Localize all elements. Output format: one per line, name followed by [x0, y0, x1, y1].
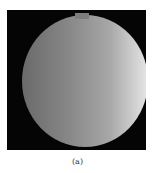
disk-notch — [75, 13, 89, 19]
figure-image — [7, 10, 146, 150]
figure-caption: (a) — [0, 157, 155, 166]
gradient-disk — [22, 15, 146, 147]
